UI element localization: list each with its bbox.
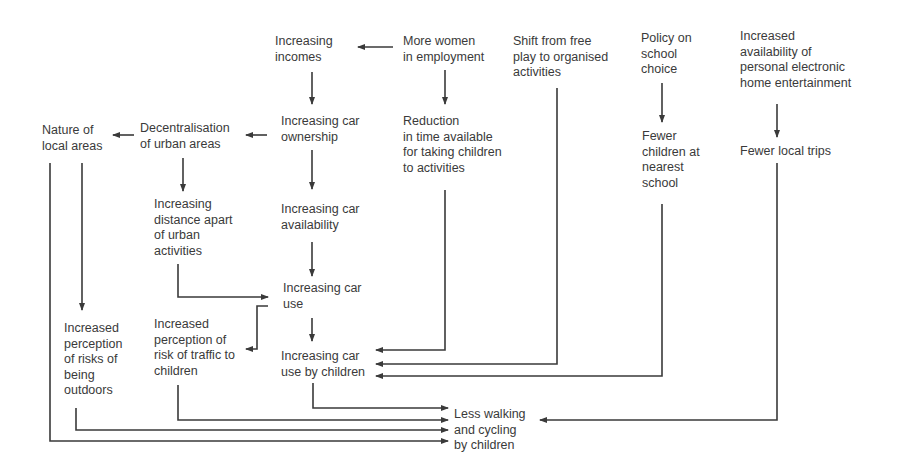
node-distance-apart: Increasing distance apart of urban activ…: [154, 197, 233, 259]
node-decentralisation: Decentralisation of urban areas: [140, 121, 230, 152]
node-car-ownership: Increasing car ownership: [281, 114, 360, 145]
node-shift-free-play: Shift from free play to organised activi…: [513, 34, 608, 81]
node-fewer-local-trips: Fewer local trips: [740, 144, 831, 160]
node-less-walking: Less walking and cycling by children: [454, 407, 526, 454]
node-reduction-time: Reduction in time available for taking c…: [403, 114, 502, 176]
node-increasing-incomes: Increasing incomes: [275, 34, 333, 65]
node-car-use-children: Increasing car use by children: [281, 349, 365, 380]
node-electronic-entertainment: Increased availability of personal elect…: [740, 29, 851, 91]
node-car-availability: Increasing car availability: [281, 202, 360, 233]
node-risks-outdoors: Increased perception of risks of being o…: [64, 321, 122, 399]
node-risk-traffic: Increased perception of risk of traffic …: [154, 317, 235, 379]
node-more-women: More women in employment: [403, 34, 484, 65]
node-car-use: Increasing car use: [283, 281, 362, 312]
node-fewer-children-school: Fewer children at nearest school: [642, 129, 700, 191]
node-policy-school: Policy on school choice: [641, 31, 692, 78]
node-nature-local: Nature of local areas: [42, 123, 102, 154]
